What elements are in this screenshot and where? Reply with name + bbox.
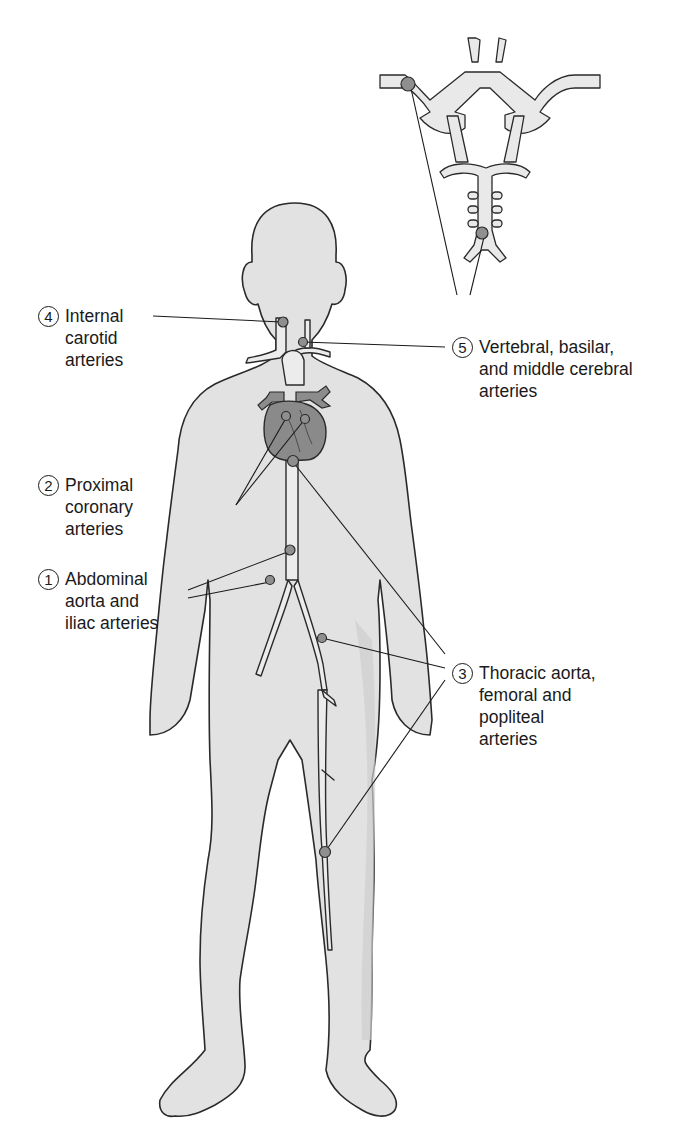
label-line: arteries (479, 380, 633, 402)
human-body-silhouette-icon (150, 203, 432, 1116)
label-line: Internal (65, 305, 123, 327)
label-line: Abdominal (65, 568, 158, 590)
circle-of-willis-icon (380, 38, 600, 262)
label-line: arteries (479, 728, 596, 750)
label-line: iliac arteries (65, 612, 158, 634)
number-badge: 3 (452, 663, 473, 684)
label-line: femoral and (479, 684, 596, 706)
number-badge: 4 (38, 306, 59, 327)
label-line: Thoracic aorta, (479, 662, 596, 684)
label-line: arteries (65, 349, 123, 371)
label-line: Proximal (65, 474, 133, 496)
label-line: popliteal (479, 706, 596, 728)
label-line: carotid (65, 327, 123, 349)
label-line: coronary (65, 496, 133, 518)
number-badge: 2 (38, 475, 59, 496)
number-badge: 1 (38, 569, 59, 590)
number-badge: 5 (452, 337, 473, 358)
label-line: Vertebral, basilar, (479, 336, 633, 358)
label-line: arteries (65, 518, 133, 540)
label-line: aorta and (65, 590, 158, 612)
label-line: and middle cerebral (479, 358, 633, 380)
